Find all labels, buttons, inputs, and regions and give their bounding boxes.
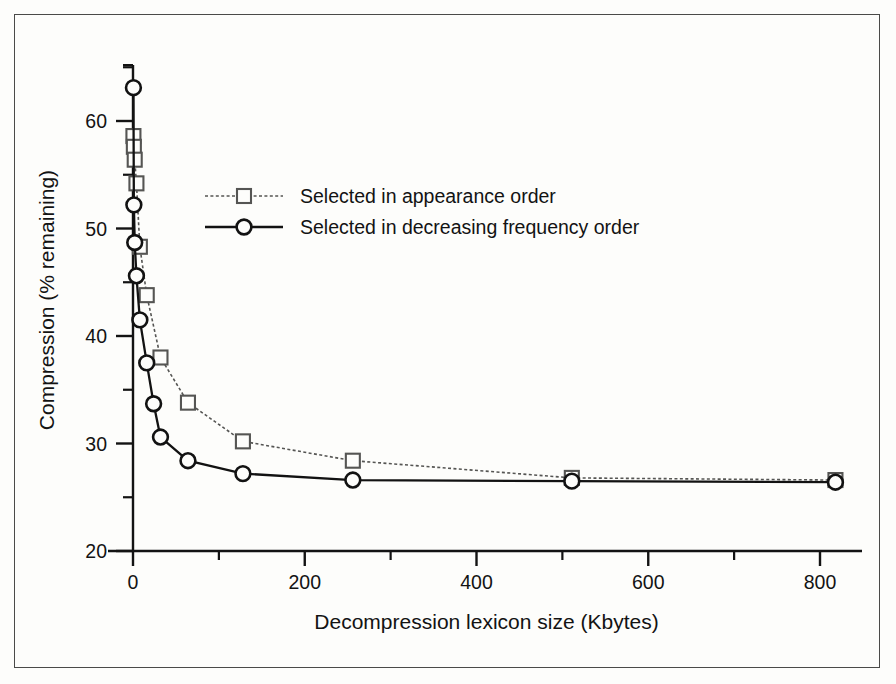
square-marker [237, 189, 251, 203]
legend-entry-label: Selected in appearance order [300, 185, 556, 207]
square-marker [140, 288, 154, 302]
circle-marker [132, 312, 147, 327]
y-axis-tick-label: 40 [85, 325, 107, 347]
figure-root: 20304050600200400600800 Selected in appe… [0, 0, 896, 684]
y-axis-tick-label: 60 [85, 110, 107, 132]
circle-marker [181, 453, 196, 468]
y-axis-tick-label: 20 [85, 540, 107, 562]
circle-marker [828, 475, 843, 490]
x-axis-tick-label: 400 [460, 571, 493, 593]
chart-canvas: 20304050600200400600800 Selected in appe… [0, 0, 896, 684]
data-series [126, 80, 843, 489]
square-marker [153, 351, 167, 365]
circle-marker [127, 235, 142, 250]
legend-layer: Selected in appearance orderSelected in … [205, 185, 640, 238]
x-axis-title: Decompression lexicon size (Kbytes) [314, 610, 658, 633]
square-marker [129, 176, 143, 190]
circle-marker [126, 197, 141, 212]
square-marker [236, 434, 250, 448]
x-axis-tick-label: 0 [128, 571, 139, 593]
circle-marker [345, 473, 360, 488]
y-axis-tick-label: 50 [85, 218, 107, 240]
circle-marker [126, 80, 141, 95]
circle-marker [146, 396, 161, 411]
circle-marker [237, 220, 252, 235]
square-marker [181, 396, 195, 410]
y-axis-tick-label: 30 [85, 433, 107, 455]
legend-entry-label: Selected in decreasing frequency order [300, 216, 640, 238]
circle-marker [236, 466, 251, 481]
x-axis-tick-label: 800 [804, 571, 837, 593]
data-series [126, 129, 842, 487]
legend-entry: Selected in decreasing frequency order [205, 216, 640, 238]
x-axis-tick-label: 200 [288, 571, 321, 593]
y-axis-title: Compression (% remaining) [35, 170, 58, 430]
series-line [133, 88, 835, 483]
circle-marker [139, 355, 154, 370]
circle-marker [153, 430, 168, 445]
circle-marker [129, 268, 144, 283]
axis-layer: 20304050600200400600800 [85, 65, 862, 593]
square-marker [346, 454, 360, 468]
series-layer [126, 80, 843, 489]
x-axis-tick-label: 600 [632, 571, 665, 593]
legend-entry: Selected in appearance order [205, 185, 556, 207]
circle-marker [564, 474, 579, 489]
